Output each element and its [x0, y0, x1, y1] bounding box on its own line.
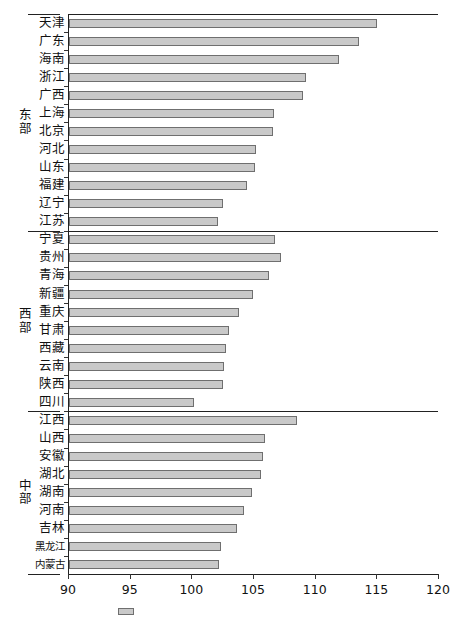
- y-axis-tick: [64, 393, 68, 394]
- bar: [69, 253, 281, 262]
- bar: [69, 73, 306, 82]
- bar: [69, 542, 221, 551]
- bar: [69, 91, 303, 100]
- category-label: 河南: [39, 504, 65, 517]
- bar: [69, 199, 223, 208]
- x-axis-tick-label: 100: [179, 582, 203, 597]
- group-divider: [68, 231, 438, 232]
- bar: [69, 560, 219, 569]
- bar: [69, 488, 252, 497]
- y-axis-tick: [64, 484, 68, 485]
- bar: [69, 271, 269, 280]
- category-label-column: 天津广东海南浙江广西上海北京河北山东福建辽宁江苏宁夏贵州青海新疆重庆甘肃西藏云南…: [36, 0, 68, 619]
- bar: [69, 217, 218, 226]
- bar: [69, 127, 273, 136]
- bar: [69, 145, 256, 154]
- bar: [69, 416, 297, 425]
- group-label: 东部: [14, 108, 36, 135]
- bar: [69, 434, 265, 443]
- y-axis-tick: [64, 122, 68, 123]
- top-axis-line: [68, 14, 438, 15]
- bar: [69, 362, 224, 371]
- category-label: 广西: [39, 89, 65, 102]
- category-label: 贵州: [39, 251, 65, 264]
- bar: [69, 380, 223, 389]
- bar: [69, 181, 247, 190]
- x-axis-tick: [130, 574, 131, 579]
- category-label: 北京: [39, 125, 65, 138]
- category-label: 四川: [39, 396, 65, 409]
- category-label: 湖北: [39, 468, 65, 481]
- group-label: 中部: [14, 479, 36, 506]
- group-label-char: 东: [14, 108, 36, 122]
- category-label: 甘肃: [39, 324, 65, 337]
- y-axis-tick: [64, 140, 68, 141]
- x-axis-tick: [376, 574, 377, 579]
- x-axis-tick: [68, 574, 69, 579]
- bar: [69, 398, 194, 407]
- y-axis-tick: [64, 520, 68, 521]
- bar: [69, 109, 274, 118]
- plot-area: 9095100105110115120: [68, 14, 438, 574]
- bar: [69, 55, 339, 64]
- chart-legend: [118, 604, 139, 618]
- category-label: 黑龙江: [35, 540, 65, 553]
- y-axis-tick: [64, 213, 68, 214]
- category-label: 云南: [39, 360, 65, 373]
- y-axis-tick: [64, 159, 68, 160]
- x-axis-tick: [191, 574, 192, 579]
- x-axis-tick-label: 110: [303, 582, 327, 597]
- legend-swatch-icon: [118, 608, 134, 615]
- y-axis-tick: [64, 339, 68, 340]
- x-axis-tick-label: 90: [60, 582, 76, 597]
- y-axis-tick: [64, 448, 68, 449]
- group-label: 西部: [14, 307, 36, 334]
- y-axis-tick: [64, 104, 68, 105]
- bar: [69, 470, 261, 479]
- group-label-char: 中: [14, 479, 36, 493]
- category-label: 海南: [39, 53, 65, 66]
- bar: [69, 344, 226, 353]
- y-axis-tick: [64, 267, 68, 268]
- x-axis-tick: [253, 574, 254, 579]
- category-label: 青海: [39, 269, 65, 282]
- category-label: 陕西: [39, 378, 65, 391]
- y-axis-tick: [64, 249, 68, 250]
- y-axis-tick: [64, 32, 68, 33]
- category-label: 江西: [39, 414, 65, 427]
- bar: [69, 308, 239, 317]
- x-axis-tick-label: 115: [364, 582, 388, 597]
- y-axis-tick: [64, 285, 68, 286]
- y-axis-tick: [64, 556, 68, 557]
- category-label: 浙江: [39, 71, 65, 84]
- group-label-char: 部: [14, 492, 36, 506]
- x-axis-tick-label: 120: [426, 582, 450, 597]
- category-label: 天津: [39, 17, 65, 30]
- category-label: 广东: [39, 35, 65, 48]
- category-label: 宁夏: [39, 233, 65, 246]
- category-label: 辽宁: [39, 197, 65, 210]
- y-axis-tick: [64, 86, 68, 87]
- y-axis-tick: [64, 195, 68, 196]
- bar: [69, 290, 253, 299]
- x-axis-tick: [438, 574, 439, 579]
- category-label: 湖南: [39, 486, 65, 499]
- group-divider: [68, 411, 438, 412]
- category-label: 西藏: [39, 342, 65, 355]
- y-axis-tick: [64, 68, 68, 69]
- y-axis-tick: [64, 321, 68, 322]
- category-label: 福建: [39, 179, 65, 192]
- y-axis-tick: [64, 357, 68, 358]
- category-label: 上海: [39, 107, 65, 120]
- y-axis-tick: [64, 50, 68, 51]
- y-axis-tick: [64, 429, 68, 430]
- category-label: 安徽: [39, 450, 65, 463]
- y-axis-tick: [64, 502, 68, 503]
- group-label-char: 部: [14, 321, 36, 335]
- y-axis-tick: [64, 303, 68, 304]
- horizontal-bar-chart: 东部西部中部 天津广东海南浙江广西上海北京河北山东福建辽宁江苏宁夏贵州青海新疆重…: [0, 0, 458, 619]
- x-axis-tick-label: 95: [122, 582, 138, 597]
- category-label: 江苏: [39, 215, 65, 228]
- bar: [69, 163, 255, 172]
- category-label: 新疆: [39, 288, 65, 301]
